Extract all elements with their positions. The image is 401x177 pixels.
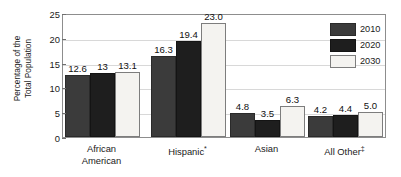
legend-label: 2020 (360, 40, 380, 50)
legend-item-2010[interactable]: 2010 (330, 22, 386, 37)
legend-swatch (330, 23, 356, 36)
y-tick-mark (62, 113, 66, 114)
y-tick-label: 15 (34, 58, 60, 69)
y-tick-mark (62, 138, 66, 139)
y-tick-label: 5 (34, 108, 60, 119)
bar-value-label: 23.0 (197, 11, 230, 22)
bar-2010-3 (308, 116, 333, 137)
bar-2020-0 (90, 73, 115, 137)
bar-value-label: 13.1 (111, 60, 144, 71)
y-tick-label: 0 (34, 133, 60, 144)
bar-value-label: 6.3 (276, 94, 309, 105)
bar-2010-0 (65, 75, 90, 137)
y-axis-title: Percentage of the Total Population (13, 0, 34, 144)
bar-group: 12.61313.1 (65, 15, 141, 137)
bar-2020-3 (333, 115, 358, 137)
y-tick-label: 10 (34, 83, 60, 94)
y-tick-mark (62, 14, 66, 15)
chart-legend: 201020202030 (330, 22, 386, 70)
bar-2030-1 (201, 23, 226, 137)
bar-2020-2 (255, 120, 280, 137)
legend-item-2030[interactable]: 2030 (330, 54, 386, 69)
y-tick-label: 25 (34, 9, 60, 20)
bar-value-label: 5.0 (354, 100, 387, 111)
y-tick-mark (62, 39, 66, 40)
y-tick-mark (62, 64, 66, 65)
legend-label: 2030 (360, 56, 380, 66)
footnote-marker: ‡ (361, 145, 365, 152)
legend-item-2020[interactable]: 2020 (330, 38, 386, 53)
bar-2030-2 (280, 106, 305, 137)
legend-swatch (330, 55, 356, 68)
bar-2020-1 (176, 41, 201, 137)
legend-label: 2010 (360, 24, 380, 34)
bar-2030-3 (358, 112, 383, 137)
bar-chart: Percentage of the Total Population 05101… (0, 0, 401, 177)
y-tick-mark (62, 88, 66, 89)
x-axis-category-label: All Other‡ (285, 143, 401, 158)
bar-2030-0 (115, 72, 140, 137)
bar-group: 4.83.56.3 (230, 15, 306, 137)
y-axis-tick-labels: 0510152025 (34, 14, 60, 138)
bar-2010-1 (151, 56, 176, 137)
bar-group: 16.319.423.0 (151, 15, 227, 137)
legend-swatch (330, 39, 356, 52)
y-tick-label: 20 (34, 33, 60, 44)
